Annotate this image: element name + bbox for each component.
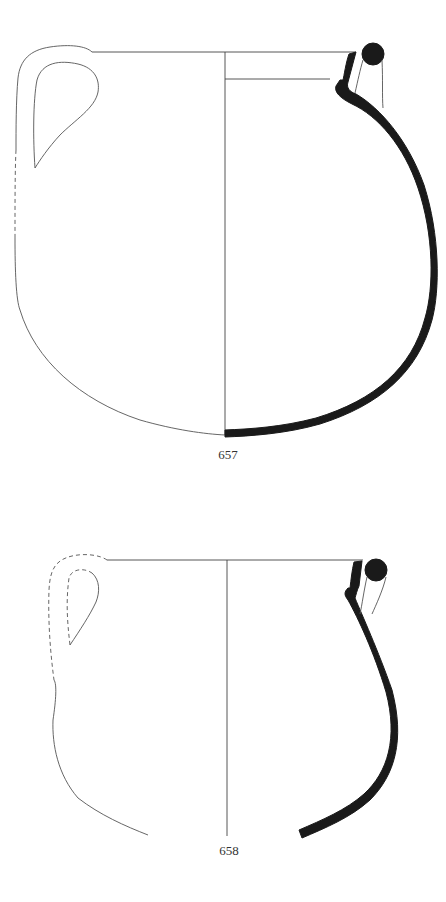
section-profile bbox=[225, 52, 437, 437]
vessel-657 bbox=[15, 43, 437, 437]
handle-outer-reconstructed bbox=[49, 555, 107, 680]
vessel-658 bbox=[49, 555, 398, 838]
vessel-number-label: 658 bbox=[199, 843, 259, 859]
body-outline-left bbox=[53, 680, 148, 835]
handle-inner bbox=[70, 573, 99, 645]
handle-outer bbox=[16, 46, 92, 150]
section-profile bbox=[299, 561, 398, 838]
handle-section bbox=[365, 559, 387, 581]
handle-section-outline bbox=[360, 577, 386, 614]
body-outline-reconstructed bbox=[15, 150, 16, 238]
handle-inner-reconstructed bbox=[67, 570, 92, 645]
vessel-number-label: 657 bbox=[198, 447, 258, 463]
handle-inner bbox=[34, 62, 99, 168]
body-outline-left bbox=[15, 238, 225, 435]
handle-section bbox=[362, 43, 384, 65]
